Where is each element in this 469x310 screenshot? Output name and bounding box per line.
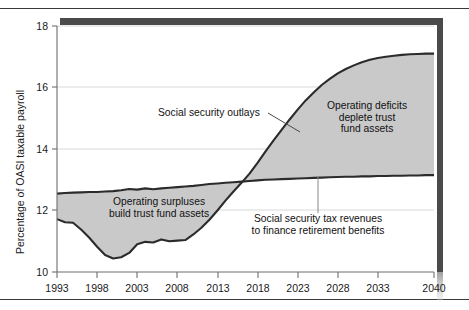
annotation-social-security-outlays: Social security outlays	[158, 107, 260, 119]
y-axis-tick-marks	[52, 26, 57, 272]
x-tick-label-1993: 1993	[37, 283, 77, 294]
x-tick-label-2013: 2013	[198, 283, 238, 294]
annotation-operating-deficits-line1: Operating deficits	[315, 100, 419, 112]
y-tick-label-14: 14	[24, 144, 48, 155]
chart-figure: Percentage of OASI taxable payroll 18 16…	[0, 0, 469, 310]
x-tick-label-2008: 2008	[157, 283, 197, 294]
x-axis-tick-marks	[57, 272, 434, 278]
y-tick-label-12: 12	[24, 205, 48, 216]
x-tick-label-1998: 1998	[77, 283, 117, 294]
annotation-tax-revenues: Social security tax revenues to finance …	[239, 213, 397, 236]
annotation-operating-deficits-line3: fund assets	[315, 123, 419, 135]
plot-top-shadow-bar	[60, 18, 443, 25]
annotation-tax-revenues-line2: to finance retirement benefits	[239, 225, 397, 237]
x-tick-label-2033: 2033	[358, 283, 398, 294]
annotation-operating-deficits: Operating deficits deplete trust fund as…	[315, 100, 419, 135]
y-axis-title: Percentage of OASI taxable payroll	[14, 90, 26, 254]
annotation-operating-surpluses: Operating surpluses build trust fund ass…	[94, 196, 224, 219]
plot-right-shadow-bar	[437, 18, 443, 272]
y-tick-label-16: 16	[24, 82, 48, 93]
chart-plot-area	[0, 0, 469, 310]
y-tick-label-10: 10	[24, 267, 48, 278]
x-tick-label-2023: 2023	[278, 283, 318, 294]
annotation-tax-revenues-line1: Social security tax revenues	[239, 213, 397, 225]
x-tick-label-2018: 2018	[238, 283, 278, 294]
annotation-operating-deficits-line2: deplete trust	[315, 112, 419, 124]
annotation-operating-surpluses-line2: build trust fund assets	[94, 208, 224, 220]
annotation-operating-surpluses-line1: Operating surpluses	[94, 196, 224, 208]
y-tick-label-18: 18	[24, 21, 48, 32]
x-tick-label-2040: 2040	[414, 283, 454, 294]
x-tick-label-2003: 2003	[117, 283, 157, 294]
x-tick-label-2028: 2028	[318, 283, 358, 294]
